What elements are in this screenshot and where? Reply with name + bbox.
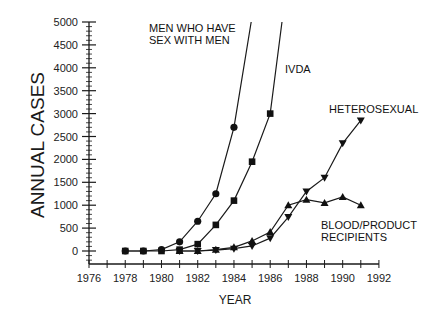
y-tick-label: 5000 — [54, 16, 78, 28]
triangle-down-marker-icon — [339, 140, 347, 147]
square-marker-icon — [249, 158, 256, 165]
y-tick-label: 1000 — [54, 199, 78, 211]
x-tick-label: 1990 — [330, 272, 354, 284]
circle-marker-icon — [230, 124, 237, 131]
series-label-line: HETEROSEXUAL — [329, 103, 418, 115]
square-marker-icon — [194, 241, 201, 248]
series-label: MEN WHO HAVESEX WITH MEN — [149, 22, 236, 46]
x-tick-label: 1986 — [258, 272, 282, 284]
y-tick-label: 2000 — [54, 153, 78, 165]
triangle-down-marker-icon — [266, 235, 274, 242]
aids-cases-chart: 0500100015002000250030003500400045005000… — [0, 0, 445, 324]
triangle-up-marker-icon — [266, 228, 274, 235]
circle-marker-icon — [176, 238, 183, 245]
triangle-down-marker-icon — [321, 175, 329, 182]
y-tick-label: 500 — [60, 222, 78, 234]
x-tick-label: 1988 — [294, 272, 318, 284]
series-label-line: SEX WITH MEN — [149, 34, 230, 46]
square-marker-icon — [122, 248, 129, 255]
circle-marker-icon — [194, 218, 201, 225]
x-axis-title: YEAR — [219, 293, 252, 307]
x-tick-label: 1976 — [77, 272, 101, 284]
series-line — [125, 22, 282, 251]
triangle-up-marker-icon — [248, 237, 256, 244]
y-axis-title: ANNUAL CASES — [27, 72, 48, 218]
series-label: IVDA — [285, 63, 311, 75]
x-tick-label: 1982 — [185, 272, 209, 284]
series-labels: MEN WHO HAVESEX WITH MENIVDAHETEROSEXUAL… — [149, 22, 418, 243]
y-tick-label: 4500 — [54, 39, 78, 51]
series-label: BLOOD/PRODUCTRECIPIENTS — [321, 219, 417, 243]
circle-marker-icon — [212, 190, 219, 197]
y-tick-label: 1500 — [54, 176, 78, 188]
series-label: HETEROSEXUAL — [329, 103, 418, 115]
square-marker-icon — [140, 248, 147, 255]
x-tick-label: 1984 — [222, 272, 246, 284]
y-tick-label: 0 — [72, 245, 78, 257]
x-tick-label: 1992 — [367, 272, 391, 284]
series-circle — [122, 22, 252, 255]
x-tick-label: 1980 — [149, 272, 173, 284]
y-tick-label: 4000 — [54, 62, 78, 74]
y-tick-label: 2500 — [54, 131, 78, 143]
triangle-up-marker-icon — [357, 201, 365, 208]
y-tick-label: 3500 — [54, 85, 78, 97]
series-label-line: BLOOD/PRODUCT — [321, 219, 417, 231]
triangle-up-marker-icon — [339, 193, 347, 200]
square-marker-icon — [158, 248, 165, 255]
series-label-line: IVDA — [285, 63, 311, 75]
axes: 0500100015002000250030003500400045005000… — [54, 16, 392, 284]
triangle-up-marker-icon — [302, 196, 310, 203]
x-tick-label: 1978 — [113, 272, 137, 284]
square-marker-icon — [213, 222, 220, 229]
y-tick-label: 3000 — [54, 108, 78, 120]
series-label-line: RECIPIENTS — [321, 231, 387, 243]
series-square — [122, 22, 282, 254]
square-marker-icon — [231, 197, 238, 204]
square-marker-icon — [267, 110, 274, 117]
series-label-line: MEN WHO HAVE — [149, 22, 236, 34]
series-line — [125, 22, 251, 251]
